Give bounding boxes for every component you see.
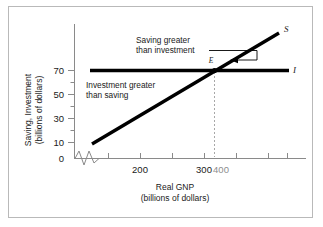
investment-greater-annotation-line2: than saving [86,90,129,100]
y-tick-label-10: 10 [53,137,64,148]
x-tick-label-400: 400 [213,164,229,175]
saving-greater-annotation-line2: than investment [136,45,195,55]
chart-figure: 70 50 30 10 0 200 300 400 Real GNP (bill… [0,0,323,227]
investment-greater-annotation-line1: Investment greater [86,80,155,90]
x-axis-title: Real GNP [156,182,195,192]
y-axis-title: Saving, Investment [23,73,33,146]
equilibrium-point-marker [212,68,217,73]
y-axis-title-units: (billions of dollars) [34,76,44,145]
x-axis-ticks [109,153,288,159]
y-tick-label-0: 0 [59,153,64,164]
y-tick-label-50: 50 [53,89,64,100]
y-tick-label-30: 30 [53,113,64,124]
x-axis-title-units: (billions of dollars) [141,193,210,203]
x-tick-label-200: 200 [132,164,148,175]
curve-label-investment: I [292,65,297,75]
saving-greater-annotation-line1: Saving greater [136,35,190,45]
chart-plot-area: 70 50 30 10 0 200 300 400 Real GNP (bill… [0,0,323,227]
equilibrium-point-label: E [208,56,214,65]
x-tick-label-300: 300 [196,164,212,175]
curve-label-saving: S [284,24,289,34]
y-tick-label-70: 70 [53,65,64,76]
y-axis-ticks [68,71,75,143]
